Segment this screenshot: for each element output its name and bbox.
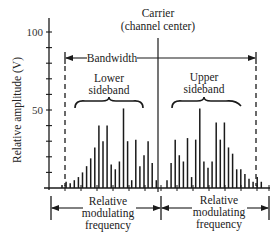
modulating-frequency-indicator: Relative modulating frequency Relative m…: [51, 194, 269, 232]
lower-mod-freq-label-3: frequency: [85, 219, 131, 232]
lower-sideband-brace: [75, 97, 143, 108]
bandwidth-label: Bandwidth: [87, 52, 138, 64]
upper-mod-freq-label-1: Relative: [200, 194, 238, 206]
lower-sideband-label-2: sideband: [89, 84, 130, 96]
y-axis-label: Relative amplitude (V): [11, 57, 24, 163]
y-axis: 100 50 Relative amplitude (V): [11, 18, 52, 190]
upper-mod-freq-label-3: frequency: [196, 218, 242, 231]
y-tick-100: 100: [27, 26, 44, 38]
carrier-sublabel: (channel center): [121, 20, 196, 33]
lower-sideband-label: Lower: [94, 72, 124, 84]
spectrum-bars: [62, 108, 261, 188]
upper-sideband-brace: [172, 97, 241, 108]
sideband-diagram: 100 50 Relative amplitude (V) Carrier (c…: [0, 0, 277, 247]
carrier-label: Carrier: [142, 7, 175, 19]
upper-sideband-label-2: sideband: [184, 83, 225, 95]
y-tick-50: 50: [32, 104, 44, 116]
lower-mod-freq-label-1: Relative: [89, 195, 127, 207]
